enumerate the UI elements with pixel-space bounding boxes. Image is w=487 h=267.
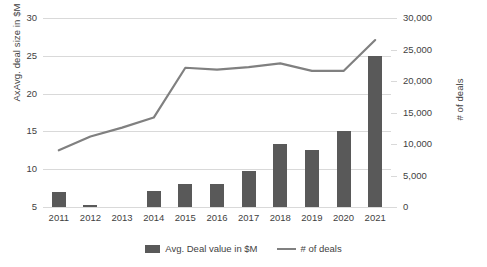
y-axis-right-tick-label: 0 — [403, 201, 455, 212]
x-axis-tick-label: 2013 — [106, 212, 138, 223]
y-axis-right-tick-mark — [391, 144, 397, 145]
y-axis-right-tick-label: 5,000 — [403, 170, 455, 181]
x-axis-tick-label: 2020 — [328, 212, 360, 223]
y-axis-right-tick-mark — [391, 113, 397, 114]
y-axis-left-tick-label: 25 — [0, 50, 37, 61]
y-axis-left-tick-label: 15 — [0, 125, 37, 136]
x-axis-tick-label: 2011 — [43, 212, 75, 223]
chart-legend: Avg. Deal value in $M# of deals — [0, 243, 487, 254]
y-axis-right-tick-label: 10,000 — [403, 138, 455, 149]
y-axis-left-tick-label: 20 — [0, 88, 37, 99]
gridline — [43, 207, 391, 208]
legend-item-label: Avg. Deal value in $M — [165, 243, 257, 254]
legend-bar-swatch-icon — [145, 245, 160, 253]
legend-item[interactable]: # of deals — [277, 243, 342, 254]
y-axis-right-tick-label: 15,000 — [403, 107, 455, 118]
x-axis-tick-label: 2017 — [233, 212, 265, 223]
x-axis-tick-label: 2014 — [138, 212, 170, 223]
line-series — [43, 18, 391, 207]
y-axis-right-tick-mark — [391, 81, 397, 82]
y-axis-right-tick-label: 20,000 — [403, 75, 455, 86]
plot-area: 51015202530 05,00010,00015,00020,00025,0… — [43, 18, 391, 207]
y-axis-right-tick-label: 25,000 — [403, 44, 455, 55]
y-axis-left-tick-label: 5 — [0, 201, 37, 212]
y-axis-left-tick-label: 30 — [0, 12, 37, 23]
y-axis-right-tick-mark — [391, 50, 397, 51]
line-path — [59, 40, 375, 150]
legend-item[interactable]: Avg. Deal value in $M — [145, 243, 257, 254]
x-axis-tick-label: 2019 — [296, 212, 328, 223]
x-axis-tick-label: 2021 — [359, 212, 391, 223]
x-axis-tick-label: 2012 — [75, 212, 107, 223]
x-axis-tick-label: 2015 — [170, 212, 202, 223]
chart-container: AxAvg. deal size in $M # of deals 510152… — [0, 0, 487, 267]
y-axis-right-tick-mark — [391, 207, 397, 208]
y-axis-left-tick-label: 10 — [0, 163, 37, 174]
legend-item-label: # of deals — [301, 243, 342, 254]
legend-line-swatch-icon — [277, 248, 296, 250]
y-axis-right-tick-label: 30,000 — [403, 12, 455, 23]
x-axis-tick-label: 2016 — [201, 212, 233, 223]
x-axis-tick-label: 2018 — [264, 212, 296, 223]
y-axis-right-tick-mark — [391, 18, 397, 19]
y-axis-right-title: # of deals — [454, 45, 465, 155]
y-axis-right-tick-mark — [391, 176, 397, 177]
